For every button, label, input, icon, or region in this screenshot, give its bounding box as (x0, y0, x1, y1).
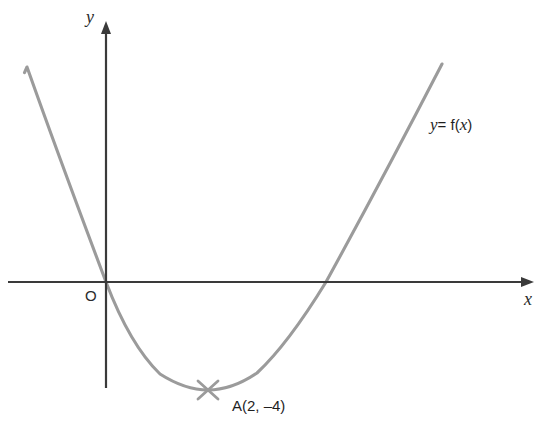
y-axis-arrow-icon (101, 21, 111, 34)
y-axis-label: y (86, 8, 94, 26)
curve-equation-body: = f( (438, 116, 460, 133)
graph-canvas (0, 0, 541, 427)
curve-equation-label: y= f(x) (430, 116, 472, 133)
function-curve (25, 64, 443, 390)
x-axis-label: x (524, 290, 532, 308)
x-axis-arrow-icon (521, 277, 534, 287)
graph-figure: y x O y= f(x) A(2, –4) (0, 0, 541, 427)
curve-equation-close: ) (467, 116, 472, 133)
point-a-label: A(2, –4) (232, 398, 285, 413)
origin-label: O (85, 288, 97, 303)
curve-equation-y: y (430, 115, 438, 134)
